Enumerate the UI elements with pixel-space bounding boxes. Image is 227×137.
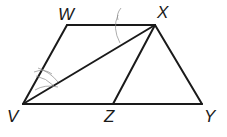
- point-label-v: V: [7, 107, 20, 126]
- angle-arc-x-tick: [117, 8, 121, 20]
- geometry-diagram: W X V Z Y: [0, 0, 227, 137]
- point-label-y: Y: [204, 107, 217, 126]
- segment-xy: [155, 25, 202, 104]
- segment-vw: [23, 25, 67, 104]
- point-label-x: X: [156, 3, 169, 22]
- point-label-z: Z: [103, 107, 115, 126]
- segment-vx: [23, 25, 155, 104]
- point-label-w: W: [58, 5, 76, 24]
